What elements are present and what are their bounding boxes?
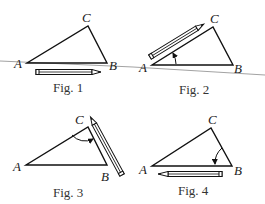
rotation-arrow-icon bbox=[72, 135, 93, 141]
figure-2: A B C Fig. 2 bbox=[133, 11, 265, 97]
vertex-label-c: C bbox=[75, 112, 84, 127]
vertex-label-b: B bbox=[234, 61, 242, 76]
vertex-label-c: C bbox=[82, 10, 91, 25]
triangle-abc bbox=[27, 26, 107, 63]
vertex-label-a: A bbox=[12, 159, 21, 174]
vertex-label-a: A bbox=[138, 60, 147, 75]
rotation-arrow-icon bbox=[173, 53, 176, 64]
vertex-label-b: B bbox=[109, 58, 117, 73]
figure-caption: Fig. 4 bbox=[178, 183, 209, 198]
vertex-label-b: B bbox=[234, 163, 242, 178]
vertex-label-c: C bbox=[210, 11, 219, 26]
figure-caption: Fig. 2 bbox=[179, 82, 209, 97]
pencil-icon bbox=[158, 172, 222, 177]
reference-line bbox=[133, 67, 265, 75]
figure-3: A B C Fig. 3 bbox=[12, 112, 124, 200]
triangle-abc bbox=[26, 127, 107, 165]
figure-caption: Fig. 3 bbox=[53, 185, 83, 200]
vertex-label-a: A bbox=[13, 56, 22, 71]
pencil-icon bbox=[36, 70, 101, 75]
vertex-label-a: A bbox=[138, 162, 147, 177]
figure-4: A B C Fig. 4 bbox=[138, 112, 242, 198]
figure-1: A B C Fig. 1 bbox=[0, 10, 133, 95]
rotation-arrow-icon bbox=[215, 148, 222, 164]
pencil-icon bbox=[149, 22, 205, 59]
figure-caption: Fig. 1 bbox=[53, 80, 83, 95]
vertex-label-c: C bbox=[208, 112, 217, 127]
vertex-label-b: B bbox=[101, 169, 109, 184]
triangle-abc bbox=[152, 128, 232, 166]
pencil-icon bbox=[88, 116, 124, 176]
